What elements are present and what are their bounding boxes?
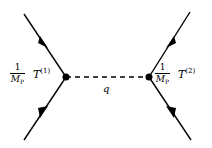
right-operator: T(2)	[178, 67, 195, 81]
left-coupling-fraction: 1 MP	[10, 63, 25, 86]
left-outgoing-line	[24, 77, 66, 140]
propagator-label: q	[103, 83, 109, 94]
left-coupling-numerator: 1	[15, 63, 21, 72]
right-coupling-fraction: 1 MP	[155, 63, 170, 86]
arrow-icon	[38, 36, 48, 48]
right-coupling-numerator: 1	[160, 63, 166, 72]
mass-symbol: M	[156, 74, 165, 84]
arrow-icon	[166, 36, 176, 48]
right-outgoing-line	[149, 77, 191, 140]
right-vertex-dot	[146, 74, 153, 81]
mass-symbol: M	[11, 74, 20, 84]
operator-superscript: (1)	[40, 67, 50, 75]
operator-superscript: (2)	[185, 67, 195, 75]
left-operator: T(1)	[33, 67, 50, 81]
right-coupling-denominator: MP	[156, 75, 169, 86]
mass-subscript: P	[165, 78, 169, 85]
left-coupling-denominator: MP	[11, 75, 24, 86]
left-vertex-dot	[63, 74, 70, 81]
mass-subscript: P	[20, 78, 24, 85]
